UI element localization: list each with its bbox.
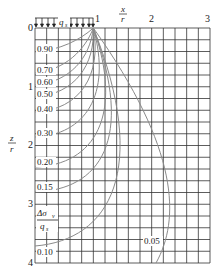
ratio-label: Δσ v q s xyxy=(36,206,58,232)
ratio-den: q xyxy=(40,221,45,231)
grid xyxy=(35,28,210,263)
x-tick-3: 3 xyxy=(205,13,210,24)
label-0.20: 0.20 xyxy=(37,157,53,167)
x-axis-den: r xyxy=(121,14,125,24)
label-0.10: 0.10 xyxy=(37,247,53,257)
label-0.60: 0.60 xyxy=(37,77,53,87)
label-0.15: 0.15 xyxy=(37,182,53,192)
y-tick-3: 3 xyxy=(28,198,33,209)
y-tick-0: 0 xyxy=(28,22,33,33)
y-tick-2: 2 xyxy=(28,139,33,150)
x-axis-num: x xyxy=(120,4,125,14)
y-tick-1: 1 xyxy=(28,81,33,92)
y-axis-den: r xyxy=(10,144,14,154)
load-label: q xyxy=(59,17,64,27)
ratio-num: Δσ xyxy=(36,208,47,218)
label-0.90: 0.90 xyxy=(37,44,53,54)
label-0.50: 0.50 xyxy=(37,89,53,99)
ratio-num-sub: v xyxy=(52,213,55,219)
x-tick-2: 2 xyxy=(149,13,154,24)
label-0.40: 0.40 xyxy=(37,104,53,114)
isobar-chart: q s 0.90 0.70 0.60 0.50 0.40 0.30 0.20 0… xyxy=(0,0,214,272)
label-0.05: 0.05 xyxy=(144,236,160,246)
label-0.70: 0.70 xyxy=(37,65,53,75)
label-0.30: 0.30 xyxy=(37,128,53,138)
y-tick-4: 4 xyxy=(28,257,33,268)
y-axis-num: z xyxy=(9,133,14,143)
x-tick-1: 1 xyxy=(95,13,100,24)
